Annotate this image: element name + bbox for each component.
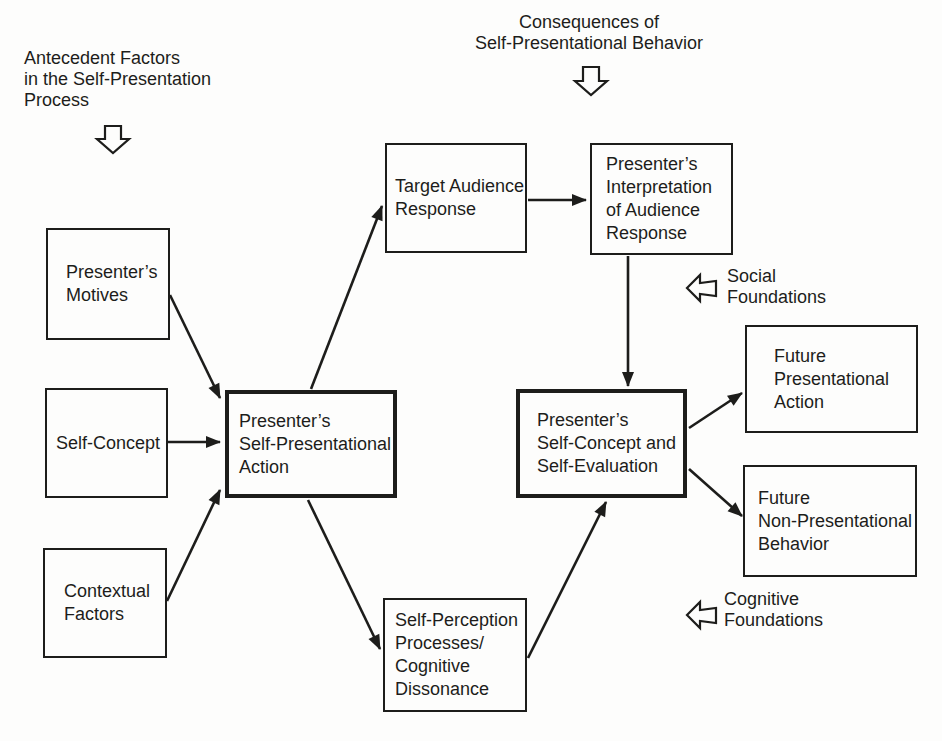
box-presenters-motives: Presenter’s Motives [46,228,170,340]
social-foundations-label: Social Foundations [727,266,826,308]
arrow-action-to-selfperception [308,500,380,649]
box-target-audience-response: Target Audience Response [385,143,527,253]
antecedent-factors-label: Antecedent Factors in the Self-Presentat… [24,48,211,111]
box-contextual-factors: Contextual Factors [43,548,167,658]
box-self-concept-and-self-evaluation: Presenter’s Self-Concept and Self-Evalua… [516,389,687,498]
arrow-action-to-target [311,206,382,389]
box-future-presentational-action: Future Presentational Action [745,325,918,433]
arrow-evaluation-to-future-behavior [689,469,742,516]
cognitive-foundations-label: Cognitive Foundations [724,589,823,631]
box-self-concept: Self-Concept [45,388,168,498]
box-presenters-interpretation: Presenter’s Interpretation of Audience R… [590,143,733,255]
social-foundations-left-arrow-icon [687,275,716,301]
consequences-down-arrow-icon [575,67,607,95]
arrow-evaluation-to-future-action [689,393,742,428]
box-self-perception-processes: Self-Perception Processes/ Cognitive Dis… [383,598,527,712]
consequences-label: Consequences of Self-Presentational Beha… [468,12,710,54]
self-presentation-flow-diagram: Antecedent Factors in the Self-Presentat… [0,0,942,741]
box-future-non-presentational-behavior: Future Non-Presentational Behavior [743,465,917,577]
arrow-contextual-to-action [167,490,220,601]
arrow-selfperception-to-evaluation [528,502,606,658]
antecedent-down-arrow-icon [97,126,129,153]
arrow-motives-to-action [170,295,220,398]
box-presenters-self-presentational-action: Presenter’s Self-Presentational Action [225,390,397,498]
cognitive-foundations-left-arrow-icon [687,602,716,628]
